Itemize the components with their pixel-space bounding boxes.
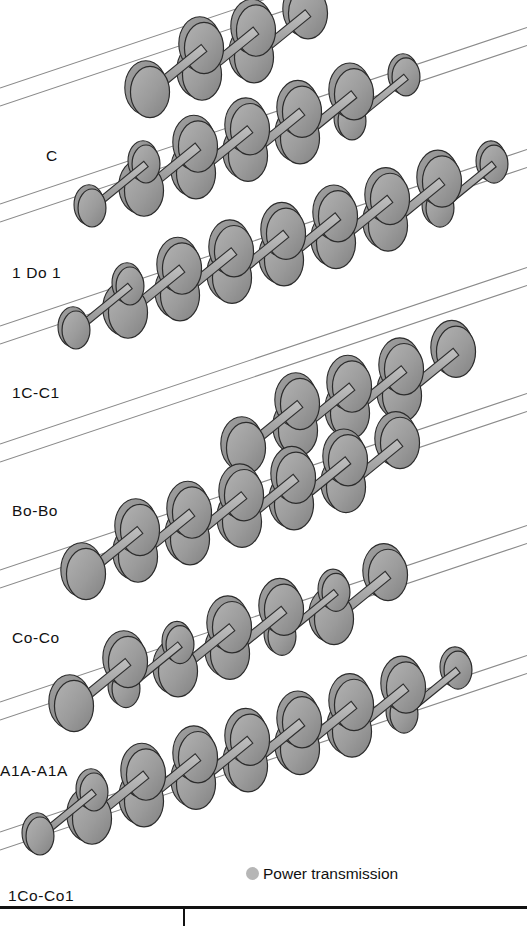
legend: Power transmission <box>246 866 398 882</box>
bottom-divider-tick <box>183 909 185 926</box>
wheelsets-group <box>22 0 508 855</box>
row-label-bo-bo: Bo-Bo <box>12 503 58 519</box>
row-label-1c-c1: 1C-C1 <box>12 385 60 401</box>
wheel-arrangement-illustration <box>0 0 527 926</box>
bottom-divider-rule <box>0 906 527 909</box>
row-label-co-co: Co-Co <box>12 630 60 646</box>
wheelset-driven <box>49 631 148 732</box>
power-transmission-dot-icon <box>246 867 259 880</box>
diagram-canvas: C 1 Do 1 1C-C1 Bo-Bo Co-Co A1A-A1A 1Co-C… <box>0 0 527 926</box>
legend-label: Power transmission <box>263 866 398 882</box>
wheel-near <box>125 61 170 118</box>
wheel-near <box>49 675 94 732</box>
wheel-near <box>22 813 54 855</box>
wheelset-driven <box>61 499 160 600</box>
row-label-c: C <box>46 148 58 164</box>
wheel-near <box>61 543 106 600</box>
wheelset-driven <box>125 17 224 118</box>
row-label-1co-co1: 1Co-Co1 <box>8 888 74 904</box>
row-label-1do1: 1 Do 1 <box>12 265 61 281</box>
wheel-near <box>74 185 106 227</box>
row-label-a1a-a1a: A1A-A1A <box>0 763 68 779</box>
wheel-near <box>58 307 90 349</box>
